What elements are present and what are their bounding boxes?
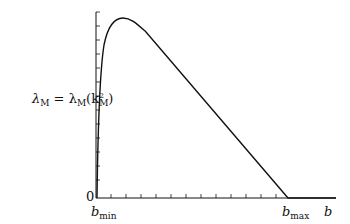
bmax-label: bmax xyxy=(282,204,309,221)
lambda-curve xyxy=(97,18,336,198)
bmin-label: bmin xyxy=(91,204,117,221)
y-axis-label: λM = λM(k2M) xyxy=(32,91,113,108)
x-axis-label: b xyxy=(324,204,332,219)
chart-plot xyxy=(0,0,350,224)
y-zero-label: 0 xyxy=(86,189,94,204)
x-axis-ticks xyxy=(111,194,276,198)
